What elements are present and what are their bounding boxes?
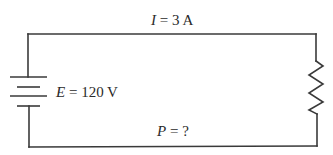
power-label: P = ? (157, 124, 189, 139)
power-value: ? (182, 123, 189, 139)
current-value: 3 A (172, 12, 193, 28)
current-label: I = 3 A (151, 13, 193, 28)
power-equals: = (166, 123, 182, 139)
power-symbol: P (157, 123, 166, 139)
battery-icon (10, 77, 47, 106)
emf-label: E = 120 V (56, 85, 118, 100)
emf-value: 120 V (81, 84, 118, 100)
bottom-wire (29, 146, 317, 147)
emf-equals: = (65, 84, 81, 100)
emf-symbol: E (56, 84, 65, 100)
current-equals: = (156, 12, 172, 28)
resistor-icon (309, 61, 323, 114)
